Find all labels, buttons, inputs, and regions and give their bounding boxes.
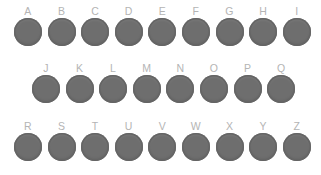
key-cell-r[interactable]: R [14, 120, 42, 161]
key-label-w: W [191, 120, 201, 132]
key-cell-d[interactable]: D [115, 5, 143, 46]
key-circle-x[interactable] [216, 133, 244, 161]
key-cell-f[interactable]: F [182, 5, 210, 46]
key-label-e: E [159, 5, 166, 17]
key-circle-k[interactable] [66, 75, 94, 103]
key-circle-d[interactable] [115, 18, 143, 46]
key-circle-t[interactable] [81, 133, 109, 161]
key-circle-c[interactable] [81, 18, 109, 46]
key-label-p: P [244, 62, 251, 74]
key-circle-f[interactable] [182, 18, 210, 46]
key-label-t: T [92, 120, 99, 132]
key-circle-m[interactable] [133, 75, 161, 103]
key-circle-i[interactable] [283, 18, 311, 46]
key-row-row-top: ABCDEFGHI [14, 5, 311, 46]
key-circle-h[interactable] [249, 18, 277, 46]
key-cell-v[interactable]: V [148, 120, 176, 161]
key-cell-s[interactable]: S [48, 120, 76, 161]
key-cell-m[interactable]: M [133, 62, 161, 103]
key-circle-b[interactable] [48, 18, 76, 46]
key-label-l: L [110, 62, 116, 74]
key-circle-o[interactable] [200, 75, 228, 103]
key-label-r: R [24, 120, 32, 132]
key-cell-n[interactable]: N [166, 62, 194, 103]
key-label-y: Y [260, 120, 267, 132]
key-cell-z[interactable]: Z [283, 120, 311, 161]
key-label-i: I [295, 5, 298, 17]
key-label-x: X [226, 120, 233, 132]
key-label-a: A [24, 5, 31, 17]
key-cell-j[interactable]: J [32, 62, 60, 103]
key-label-h: H [259, 5, 267, 17]
key-cell-x[interactable]: X [216, 120, 244, 161]
key-label-g: G [225, 5, 233, 17]
key-cell-b[interactable]: B [48, 5, 76, 46]
key-label-q: Q [277, 62, 285, 74]
key-circle-z[interactable] [283, 133, 311, 161]
key-circle-p[interactable] [234, 75, 262, 103]
key-cell-i[interactable]: I [283, 5, 311, 46]
key-circle-y[interactable] [249, 133, 277, 161]
key-circle-u[interactable] [115, 133, 143, 161]
key-circle-a[interactable] [14, 18, 42, 46]
key-circle-r[interactable] [14, 133, 42, 161]
key-cell-k[interactable]: K [66, 62, 94, 103]
keypad-diagram: ABCDEFGHIJKLMNOPQRSTUVWXYZ [0, 0, 321, 175]
key-cell-p[interactable]: P [234, 62, 262, 103]
key-circle-j[interactable] [32, 75, 60, 103]
key-cell-y[interactable]: Y [249, 120, 277, 161]
key-cell-g[interactable]: G [216, 5, 244, 46]
key-label-c: C [91, 5, 99, 17]
key-circle-g[interactable] [216, 18, 244, 46]
key-cell-a[interactable]: A [14, 5, 42, 46]
key-label-f: F [193, 5, 200, 17]
key-label-b: B [58, 5, 65, 17]
key-label-s: S [58, 120, 65, 132]
key-circle-n[interactable] [166, 75, 194, 103]
key-cell-e[interactable]: E [148, 5, 176, 46]
key-label-m: M [142, 62, 151, 74]
key-cell-q[interactable]: Q [267, 62, 295, 103]
key-cell-l[interactable]: L [99, 62, 127, 103]
key-label-o: O [210, 62, 218, 74]
key-circle-s[interactable] [48, 133, 76, 161]
key-cell-h[interactable]: H [249, 5, 277, 46]
key-row-row-bottom: RSTUVWXYZ [14, 120, 311, 161]
key-label-v: V [159, 120, 166, 132]
key-label-j: J [43, 62, 49, 74]
key-circle-q[interactable] [267, 75, 295, 103]
key-circle-l[interactable] [99, 75, 127, 103]
key-label-n: N [176, 62, 184, 74]
key-cell-w[interactable]: W [182, 120, 210, 161]
key-cell-u[interactable]: U [115, 120, 143, 161]
key-label-z: Z [293, 120, 300, 132]
key-label-u: U [125, 120, 133, 132]
key-circle-e[interactable] [148, 18, 176, 46]
key-cell-o[interactable]: O [200, 62, 228, 103]
key-label-d: D [125, 5, 133, 17]
key-row-row-middle: JKLMNOPQ [32, 62, 295, 103]
key-cell-t[interactable]: T [81, 120, 109, 161]
key-circle-v[interactable] [148, 133, 176, 161]
key-circle-w[interactable] [182, 133, 210, 161]
key-label-k: K [76, 62, 83, 74]
key-cell-c[interactable]: C [81, 5, 109, 46]
